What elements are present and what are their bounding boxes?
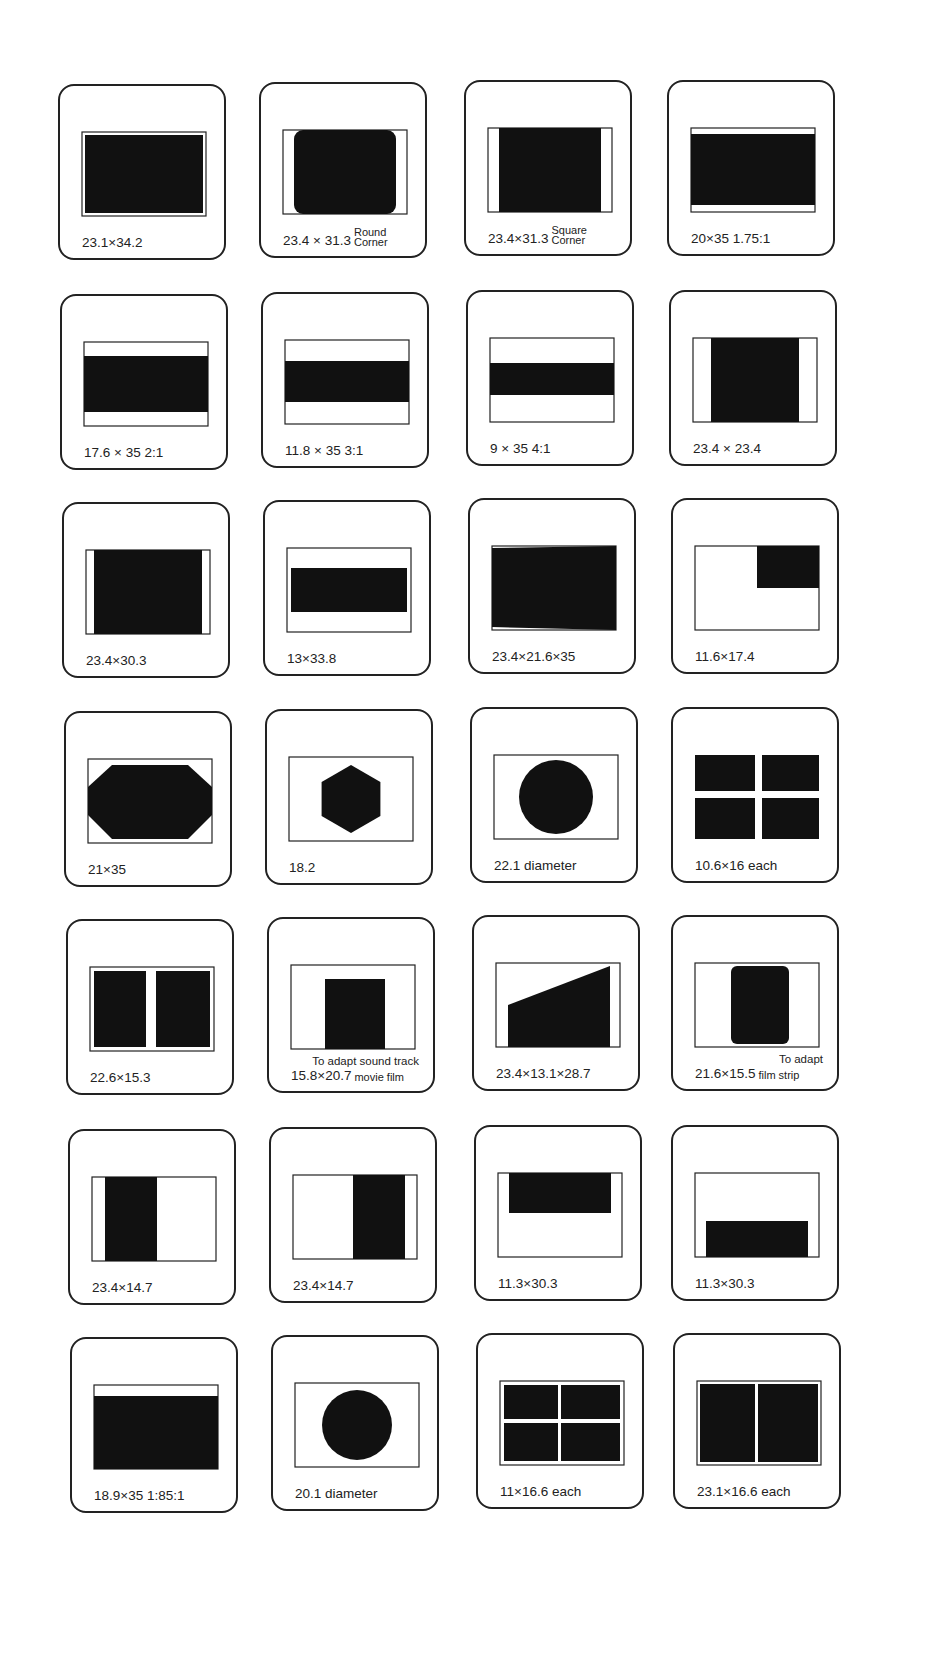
mount-dimension: 9 × 35 4:1: [490, 441, 550, 456]
mount-label: 18.9×35 1:85:1: [94, 1489, 184, 1502]
mount-dimension: 23.4×30.3: [86, 653, 146, 668]
slide-mount-wide-2: 17.6 × 35 2:1: [60, 294, 228, 470]
slide-mount-wide-3: 11.8 × 35 3:1: [261, 292, 429, 468]
mount-label: 22.1 diameter: [494, 859, 577, 872]
mount-dimension: 23.4×21.6×35: [492, 649, 575, 664]
slide-mount-wide-175: 20×35 1.75:1: [667, 80, 835, 256]
mount-dimension: 13×33.8: [287, 651, 336, 666]
mount-dimension: 23.4×14.7: [293, 1278, 353, 1293]
mount-dimension: 23.4 × 31.3: [283, 233, 351, 248]
mount-note: movie film: [354, 1072, 404, 1082]
mount-label: 23.4×14.7: [293, 1279, 353, 1292]
mount-label: 10.6×16 each: [695, 859, 777, 872]
mount-label: 11.6×17.4: [695, 650, 754, 663]
slide-mount-wide-4: 9 × 35 4:1: [466, 290, 634, 466]
slide-mount-four-grid: 11×16.6 each: [476, 1333, 644, 1509]
slide-mount-band-13: 13×33.8: [263, 500, 431, 676]
mount-dimension: 11.6×17.4: [695, 649, 754, 664]
mount-note-top: To adapt sound track: [312, 1055, 419, 1067]
slide-mount-full-rect: 23.1×34.2: [58, 84, 226, 260]
slide-mount-half-right: 23.4×14.7: [269, 1127, 437, 1303]
mount-dimension: 11.3×30.3: [695, 1276, 754, 1291]
mount-label: 11×16.6 each: [500, 1485, 581, 1498]
mount-dimension: 23.4×14.7: [92, 1280, 152, 1295]
mount-label: 23.4 × 31.3Round Corner: [283, 227, 398, 247]
mount-note: Square Corner: [551, 225, 595, 245]
slide-mount-octagon: 21×35: [64, 711, 232, 887]
mount-dimension: 23.4 × 23.4: [693, 441, 761, 456]
mount-dimension: 22.1 diameter: [494, 858, 577, 873]
mount-label: 23.4×31.3Square Corner: [488, 225, 595, 245]
mount-label: 9 × 35 4:1: [490, 442, 550, 455]
mount-dimension: 11.8 × 35 3:1: [285, 443, 363, 458]
slide-mount-two-vertical: 22.6×15.3: [66, 919, 234, 1095]
slide-mount-hexagon: 18.2: [265, 709, 433, 885]
slide-mount-wide-185: 18.9×35 1:85:1: [70, 1337, 238, 1513]
mount-label: 11.3×30.3: [498, 1277, 557, 1290]
mount-label: 21×35: [88, 863, 126, 876]
slide-mount-trapezoid: 23.4×21.6×35: [468, 498, 636, 674]
mount-dimension: 18.9×35 1:85:1: [94, 1488, 184, 1503]
mount-label: 11.8 × 35 3:1: [285, 444, 363, 457]
mount-label: 13×33.8: [287, 652, 336, 665]
slide-mount-round-corner: 23.4 × 31.3Round Corner: [259, 82, 427, 258]
mount-dimension: 23.1×16.6 each: [697, 1484, 790, 1499]
slide-mount-four-cross: 10.6×16 each: [671, 707, 839, 883]
slide-mount-sound-track: To adapt sound track15.8×20.7movie film: [267, 917, 435, 1093]
mount-label: 11.3×30.3: [695, 1277, 754, 1290]
slide-mount-film-strip: To adapt21.6×15.5film strip: [671, 915, 839, 1091]
mount-dimension: 23.4×13.1×28.7: [496, 1066, 591, 1081]
mount-dimension: 18.2: [289, 860, 315, 875]
mount-dimension: 15.8×20.7: [291, 1068, 351, 1083]
mount-dimension: 11×16.6 each: [500, 1484, 581, 1499]
slide-mount-circle-small: 20.1 diameter: [271, 1335, 439, 1511]
mount-label: 21.6×15.5film strip: [695, 1067, 799, 1080]
mount-dimension: 21×35: [88, 862, 126, 877]
mount-dimension: 11.3×30.3: [498, 1276, 557, 1291]
slide-mount-half-top: 11.3×30.3: [474, 1125, 642, 1301]
slide-mount-two-split: 23.1×16.6 each: [673, 1333, 841, 1509]
slide-mount-square-corner: 23.4×31.3Square Corner: [464, 80, 632, 256]
mount-dimension: 22.6×15.3: [90, 1070, 150, 1085]
mount-label: 23.4×21.6×35: [492, 650, 575, 663]
mount-dimension: 20.1 diameter: [295, 1486, 378, 1501]
mount-label: 18.2: [289, 861, 315, 874]
slide-mount-near-full: 23.4×30.3: [62, 502, 230, 678]
mount-dimension: 23.4×31.3: [488, 231, 548, 246]
mount-dimension: 17.6 × 35 2:1: [84, 445, 163, 460]
mount-note: Round Corner: [354, 227, 398, 247]
slide-mount-half-left: 23.4×14.7: [68, 1129, 236, 1305]
mount-label: 17.6 × 35 2:1: [84, 446, 163, 459]
slide-mount-quarter-top-right: 11.6×17.4: [671, 498, 839, 674]
mount-dimension: 23.1×34.2: [82, 235, 142, 250]
mount-label: 20×35 1.75:1: [691, 232, 770, 245]
mount-dimension: 10.6×16 each: [695, 858, 777, 873]
mount-label: 15.8×20.7movie film: [291, 1069, 404, 1082]
mount-label: 23.4×14.7: [92, 1281, 152, 1294]
mount-note: film strip: [758, 1070, 799, 1080]
slide-mount-circle-large: 22.1 diameter: [470, 707, 638, 883]
mount-label: 22.6×15.3: [90, 1071, 150, 1084]
mount-label: 23.4×13.1×28.7: [496, 1067, 591, 1080]
mount-label: 23.4×30.3: [86, 654, 146, 667]
slide-mount-half-bottom: 11.3×30.3: [671, 1125, 839, 1301]
slide-mount-square: 23.4 × 23.4: [669, 290, 837, 466]
slide-mount-wedge: 23.4×13.1×28.7: [472, 915, 640, 1091]
mount-note-top: To adapt: [779, 1053, 823, 1065]
mount-label: 23.1×34.2: [82, 236, 142, 249]
mount-dimension: 21.6×15.5: [695, 1066, 755, 1081]
mount-label: 23.4 × 23.4: [693, 442, 761, 455]
mount-dimension: 20×35 1.75:1: [691, 231, 770, 246]
mount-label: 20.1 diameter: [295, 1487, 378, 1500]
mount-label: 23.1×16.6 each: [697, 1485, 790, 1498]
